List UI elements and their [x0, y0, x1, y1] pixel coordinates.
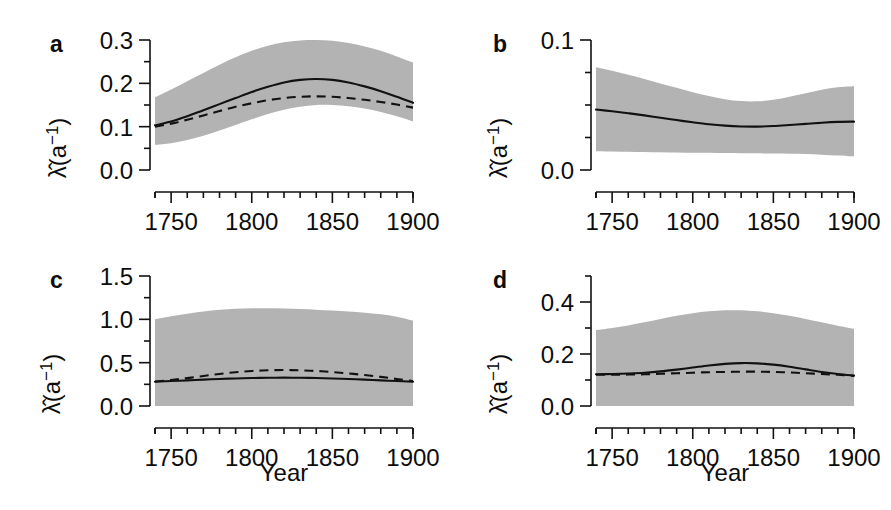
x-axis-tick-label: 1850: [306, 444, 359, 471]
svg-text:λ̂(a−1): λ̂(a−1): [484, 118, 512, 179]
y-axis-tick-label: 0.0: [100, 393, 133, 420]
panel-a: a λ̂(a−1) 0.00.10.20.31750180018501900: [0, 0, 450, 260]
y-axis-tick-label: 0.5: [100, 350, 133, 377]
x-axis-tick-label: 1850: [747, 444, 800, 471]
y-axis-tick-label: 0.0: [100, 157, 133, 184]
x-axis-tick-label: 1850: [306, 208, 359, 235]
ylabel-main-text: λ̂(a: [485, 380, 512, 414]
panel-c-plot: [155, 308, 413, 406]
figure-root: a λ̂(a−1) 0.00.10.20.31750180018501900 b…: [0, 0, 891, 510]
panel-d-plot: [596, 310, 854, 406]
svg-text:λ̂(a−1): λ̂(a−1): [37, 354, 65, 415]
y-axis-tick-label: 0.3: [100, 27, 133, 54]
panel-b-plot: [596, 67, 854, 156]
x-axis-tick-label: 1900: [386, 444, 439, 471]
confidence-band: [155, 308, 413, 406]
panel-c: c λ̂(a−1) 0.00.51.01.51750180018501900 Y…: [0, 236, 450, 510]
ylabel-close-text: ): [485, 118, 512, 126]
x-axis-tick-label: 1750: [585, 208, 638, 235]
ylabel-main-text: λ̂(a: [485, 144, 512, 178]
ylabel-close-text: ): [485, 354, 512, 362]
x-axis-tick-label: 1800: [666, 208, 719, 235]
confidence-band: [596, 310, 854, 406]
x-axis-tick-label: 1900: [827, 208, 880, 235]
y-axis-tick-label: 0.1: [100, 114, 133, 141]
y-axis-tick-label: 0.1: [541, 27, 574, 54]
ylabel-main-text: λ̂(a: [38, 380, 65, 414]
panel-a-plot: [155, 40, 413, 145]
x-axis-tick-label: 1750: [144, 444, 197, 471]
panel-d: d λ̂(a−1) 0.00.20.41750180018501900 Year: [441, 236, 891, 510]
x-axis-tick-label: 1750: [585, 444, 638, 471]
ylabel-close-text: ): [44, 118, 71, 126]
panel-a-letter: a: [50, 31, 63, 57]
x-axis-tick-label: 1900: [827, 444, 880, 471]
panel-c-ylabel: λ̂(a−1): [37, 354, 65, 415]
x-axis-tick-label: 1800: [225, 208, 278, 235]
panel-d-letter: d: [493, 267, 507, 293]
panel-b-letter: b: [493, 31, 507, 57]
y-axis-tick-label: 0.4: [541, 289, 574, 316]
svg-text:λ̂(a−1): λ̂(a−1): [43, 118, 71, 179]
panel-a-ylabel: λ̂(a−1): [43, 118, 71, 179]
ylabel-sup-text: −1: [37, 362, 56, 381]
ylabel-sup-text: −1: [43, 126, 62, 145]
x-axis-tick-label: 1750: [144, 208, 197, 235]
panel-c-letter: c: [50, 267, 63, 293]
y-axis-tick-label: 0.2: [100, 70, 133, 97]
panel-d-xlabel: Year: [701, 459, 750, 486]
confidence-band: [596, 67, 854, 156]
x-axis-tick-label: 1900: [386, 208, 439, 235]
y-axis-tick-label: 0.0: [541, 393, 574, 420]
ylabel-sup-text: −1: [484, 362, 503, 381]
panel-b-ylabel: λ̂(a−1): [484, 118, 512, 179]
x-axis-tick-label: 1850: [747, 208, 800, 235]
y-axis-tick-label: 0.0: [541, 157, 574, 184]
y-axis-tick-label: 1.5: [100, 263, 133, 290]
y-axis-tick-label: 0.2: [541, 341, 574, 368]
confidence-band: [155, 40, 413, 145]
ylabel-sup-text: −1: [484, 126, 503, 145]
panel-d-ylabel: λ̂(a−1): [484, 354, 512, 415]
ylabel-main-text: λ̂(a: [44, 144, 71, 178]
svg-text:λ̂(a−1): λ̂(a−1): [484, 354, 512, 415]
panel-c-xlabel: Year: [260, 459, 309, 486]
ylabel-close-text: ): [38, 354, 65, 362]
panel-b: b λ̂(a−1) 0.00.11750180018501900: [441, 0, 891, 260]
y-axis-tick-label: 1.0: [100, 306, 133, 333]
